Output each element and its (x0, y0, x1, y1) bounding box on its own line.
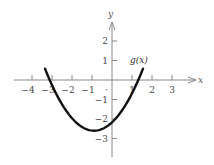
y-axis-label: y (107, 9, 114, 19)
graph-figure: −4−3−2−112321−1−2−3 g(x) x y · (0, 0, 214, 165)
y-tick-label: −1 (95, 95, 108, 105)
x-tick-label: 3 (169, 85, 175, 95)
y-tick-label: −3 (95, 134, 109, 144)
y-tick-label: 1 (102, 56, 108, 66)
y-tick-label: 2 (102, 36, 108, 46)
x-tick-label: −4 (21, 85, 35, 95)
ticks: −4−3−2−112321−1−2−3 (21, 36, 175, 144)
y-tick-label: −2 (95, 114, 108, 124)
x-tick-label: −2 (61, 85, 74, 95)
x-axis-label: x (198, 75, 203, 85)
origin-marker: · (105, 85, 108, 95)
plot-canvas: −4−3−2−112321−1−2−3 g(x) x y · (0, 0, 214, 165)
x-tick-label: −1 (81, 85, 94, 95)
function-label: g(x) (130, 55, 148, 65)
x-tick-label: 2 (149, 85, 155, 95)
